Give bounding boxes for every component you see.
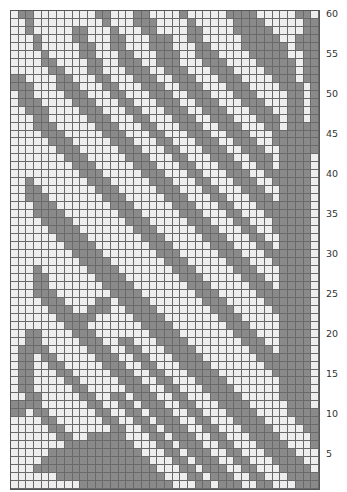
chart-cell bbox=[288, 35, 296, 43]
chart-cell bbox=[134, 138, 142, 146]
chart-cell bbox=[157, 433, 165, 441]
chart-cell bbox=[257, 99, 265, 107]
chart-cell bbox=[180, 107, 188, 115]
chart-cell bbox=[196, 218, 204, 226]
chart-cell bbox=[296, 338, 304, 346]
chart-cell bbox=[165, 27, 173, 35]
chart-cell bbox=[273, 425, 281, 433]
chart-cell bbox=[42, 346, 50, 354]
chart-cell bbox=[280, 282, 288, 290]
chart-cell bbox=[80, 234, 88, 242]
chart-cell bbox=[80, 370, 88, 378]
chart-cell bbox=[211, 170, 219, 178]
chart-cell bbox=[134, 170, 142, 178]
chart-cell bbox=[219, 370, 227, 378]
chart-cell bbox=[227, 266, 235, 274]
chart-cell bbox=[134, 83, 142, 91]
chart-cell bbox=[280, 481, 288, 489]
chart-cell bbox=[250, 290, 258, 298]
chart-cell bbox=[126, 338, 134, 346]
chart-cell bbox=[96, 154, 104, 162]
chart-cell bbox=[219, 91, 227, 99]
chart-cell bbox=[219, 290, 227, 298]
chart-cell bbox=[42, 354, 50, 362]
chart-cell bbox=[219, 274, 227, 282]
chart-cell bbox=[288, 274, 296, 282]
chart-cell bbox=[304, 425, 312, 433]
chart-cell bbox=[111, 146, 119, 154]
chart-cell bbox=[234, 210, 242, 218]
chart-cell bbox=[296, 67, 304, 75]
chart-cell bbox=[73, 178, 81, 186]
chart-cell bbox=[188, 481, 196, 489]
chart-cell bbox=[188, 314, 196, 322]
chart-cell bbox=[227, 11, 235, 19]
chart-cell bbox=[65, 67, 73, 75]
chart-cell bbox=[211, 202, 219, 210]
chart-cell bbox=[142, 186, 150, 194]
chart-cell bbox=[103, 441, 111, 449]
chart-cell bbox=[57, 91, 65, 99]
chart-cell bbox=[265, 242, 273, 250]
chart-cell bbox=[119, 322, 127, 330]
chart-cell bbox=[11, 234, 19, 242]
chart-cell bbox=[180, 338, 188, 346]
chart-cell bbox=[49, 417, 57, 425]
chart-cell bbox=[57, 266, 65, 274]
chart-cell bbox=[11, 138, 19, 146]
chart-cell bbox=[103, 457, 111, 465]
chart-cell bbox=[180, 314, 188, 322]
chart-cell bbox=[88, 354, 96, 362]
chart-cell bbox=[173, 401, 181, 409]
chart-cell bbox=[150, 298, 158, 306]
chart-cell bbox=[142, 417, 150, 425]
chart-cell bbox=[265, 314, 273, 322]
chart-cell bbox=[288, 377, 296, 385]
chart-cell bbox=[296, 425, 304, 433]
chart-cell bbox=[257, 377, 265, 385]
chart-cell bbox=[126, 218, 134, 226]
chart-cell bbox=[49, 83, 57, 91]
chart-cell bbox=[11, 338, 19, 346]
chart-cell bbox=[280, 290, 288, 298]
chart-cell bbox=[265, 11, 273, 19]
chart-cell bbox=[103, 115, 111, 123]
chart-cell bbox=[103, 83, 111, 91]
chart-cell bbox=[211, 250, 219, 258]
chart-cell bbox=[273, 282, 281, 290]
chart-cell bbox=[196, 154, 204, 162]
chart-cell bbox=[288, 83, 296, 91]
chart-cell bbox=[280, 178, 288, 186]
chart-cell bbox=[150, 154, 158, 162]
chart-cell bbox=[173, 19, 181, 27]
chart-cell bbox=[280, 465, 288, 473]
chart-cell bbox=[211, 417, 219, 425]
chart-cell bbox=[73, 242, 81, 250]
chart-cell bbox=[65, 146, 73, 154]
chart-cell bbox=[119, 250, 127, 258]
chart-cell bbox=[88, 146, 96, 154]
chart-cell bbox=[19, 298, 27, 306]
chart-cell bbox=[34, 370, 42, 378]
chart-cell bbox=[188, 210, 196, 218]
chart-cell bbox=[157, 67, 165, 75]
chart-cell bbox=[119, 91, 127, 99]
chart-cell bbox=[119, 377, 127, 385]
chart-cell bbox=[196, 362, 204, 370]
chart-cell bbox=[11, 194, 19, 202]
chart-cell bbox=[165, 409, 173, 417]
chart-cell bbox=[280, 362, 288, 370]
chart-cell bbox=[265, 43, 273, 51]
chart-cell bbox=[142, 481, 150, 489]
chart-cell bbox=[188, 115, 196, 123]
chart-cell bbox=[227, 330, 235, 338]
chart-cell bbox=[188, 409, 196, 417]
chart-cell bbox=[196, 401, 204, 409]
chart-cell bbox=[173, 51, 181, 59]
chart-cell bbox=[111, 481, 119, 489]
chart-cell bbox=[88, 362, 96, 370]
chart-cell bbox=[19, 75, 27, 83]
chart-cell bbox=[34, 115, 42, 123]
chart-cell bbox=[34, 417, 42, 425]
chart-cell bbox=[211, 51, 219, 59]
